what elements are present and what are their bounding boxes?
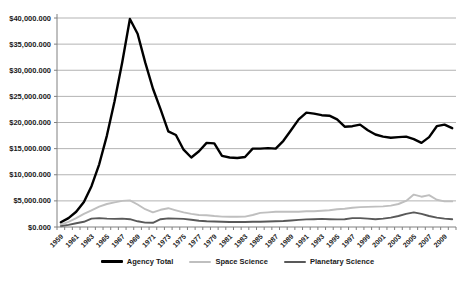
x-axis-label: 2001 xyxy=(371,233,387,249)
legend-line-swatch xyxy=(101,260,123,263)
x-axis-label: 1993 xyxy=(309,233,325,249)
x-axis-label: 1991 xyxy=(294,233,310,249)
legend-line-swatch xyxy=(189,261,211,263)
x-axis-label: 1985 xyxy=(248,233,264,249)
legend-label: Planetary Science xyxy=(310,257,374,266)
x-axis-label: 1979 xyxy=(202,233,218,249)
x-axis-label: 1975 xyxy=(171,233,187,249)
x-axis-label: 1977 xyxy=(187,233,203,249)
y-axis-label: $10,000.000 xyxy=(9,170,51,179)
y-axis-label: $15,000.000 xyxy=(9,144,51,153)
legend: Agency TotalSpace SciencePlanetary Scien… xyxy=(0,257,475,266)
series-line-space-science xyxy=(61,195,452,225)
x-axis-label: 1973 xyxy=(156,233,172,249)
x-axis-label: 2009 xyxy=(432,233,448,249)
x-axis-label: 1997 xyxy=(340,233,356,249)
x-axis-label: 1965 xyxy=(95,233,111,249)
legend-line-swatch xyxy=(284,261,306,263)
y-axis-label: $35,000.000 xyxy=(9,40,51,49)
legend-item-space-science: Space Science xyxy=(189,257,268,266)
x-axis-label: 1999 xyxy=(356,233,372,249)
x-axis-label: 1961 xyxy=(64,233,80,249)
y-axis-label: $20,000.000 xyxy=(9,118,51,127)
x-axis-label: 1981 xyxy=(217,233,233,249)
y-axis-label: $5,000.000 xyxy=(13,196,51,205)
y-axis-label: $40,000.000 xyxy=(9,14,51,23)
x-axis-label: 1967 xyxy=(110,233,126,249)
x-axis-label: 2003 xyxy=(386,233,402,249)
x-axis-label: 1959 xyxy=(49,233,65,249)
x-axis-label: 1989 xyxy=(279,233,295,249)
x-axis-label: 1971 xyxy=(141,233,157,249)
nasa-budget-line-chart: $0.000$5,000.000$10,000.000$15,000.000$2… xyxy=(0,0,475,282)
x-axis-label: 2007 xyxy=(417,233,433,249)
y-axis-label: $30,000.000 xyxy=(9,66,51,75)
plot-area: $0.000$5,000.000$10,000.000$15,000.000$2… xyxy=(0,0,475,256)
x-axis-label: 1983 xyxy=(233,233,249,249)
x-axis-label: 1969 xyxy=(125,233,141,249)
legend-item-agency-total: Agency Total xyxy=(101,257,174,266)
legend-label: Agency Total xyxy=(127,257,174,266)
x-axis-label: 1995 xyxy=(325,233,341,249)
y-axis-label: $25,000.000 xyxy=(9,92,51,101)
y-axis-label: $0.000 xyxy=(28,223,51,232)
x-axis-label: 1987 xyxy=(263,233,279,249)
x-axis-label: 2005 xyxy=(402,233,418,249)
x-axis-label: 1963 xyxy=(79,233,95,249)
legend-label: Space Science xyxy=(215,257,268,266)
legend-item-planetary-science: Planetary Science xyxy=(284,257,374,266)
series-line-agency-total xyxy=(61,19,452,222)
